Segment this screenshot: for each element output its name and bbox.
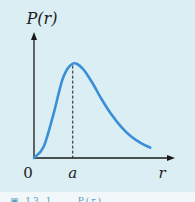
y-axis-label: P(r) [26, 9, 58, 28]
marks [34, 63, 150, 158]
x-tick-label-zero: 0 [23, 164, 33, 182]
y-axis-arrow [31, 32, 37, 40]
axes [31, 32, 175, 161]
caption-fragment: ▣ 13.1 ... P(r) [10, 195, 103, 202]
x-axis-arrow [167, 155, 175, 161]
x-axis-label: r [158, 164, 166, 182]
series-line-P-r [34, 63, 150, 158]
chart: 0arP(r) [0, 0, 195, 192]
x-tick-label-a: a [68, 164, 77, 182]
labels: 0arP(r) [23, 9, 166, 182]
